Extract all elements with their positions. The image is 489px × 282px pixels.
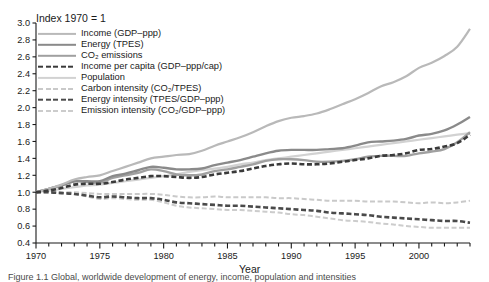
svg-text:1.0: 1.0: [17, 188, 30, 198]
svg-text:1.8: 1.8: [17, 120, 30, 130]
legend-line-swatch: [38, 28, 76, 39]
legend-line-swatch: [38, 72, 76, 83]
svg-text:0.8: 0.8: [17, 204, 30, 214]
legend-item[interactable]: CO₂ emissions: [38, 50, 225, 61]
svg-text:1990: 1990: [281, 251, 301, 261]
svg-text:0.4: 0.4: [17, 238, 30, 248]
svg-text:2.2: 2.2: [17, 86, 30, 96]
svg-text:3.0: 3.0: [17, 18, 30, 28]
legend-line-swatch: [38, 105, 76, 116]
legend-item-label: Energy (TPES): [81, 39, 144, 50]
legend-item-label: Population: [81, 72, 125, 83]
legend-item-label: Energy intensity (TPES/GDP–ppp): [81, 94, 224, 105]
legend-item[interactable]: Energy intensity (TPES/GDP–ppp): [38, 94, 225, 105]
legend-line-swatch: [38, 50, 76, 61]
svg-text:0.6: 0.6: [17, 221, 30, 231]
svg-text:1.2: 1.2: [17, 171, 30, 181]
svg-text:1975: 1975: [90, 251, 110, 261]
svg-text:1970: 1970: [26, 251, 46, 261]
svg-text:2.0: 2.0: [17, 103, 30, 113]
series-line: [36, 117, 470, 192]
legend-line-swatch: [38, 39, 76, 50]
legend-item-label: Carbon intensity (CO₂/TPES): [81, 83, 201, 94]
legend-line-swatch: [38, 61, 76, 72]
legend-item-label: Income per capita (GDP–ppp/cap): [81, 61, 222, 72]
chart-legend: Income (GDP–ppp)Energy (TPES)CO₂ emissio…: [38, 28, 225, 116]
legend-item[interactable]: Carbon intensity (CO₂/TPES): [38, 83, 225, 94]
svg-text:1995: 1995: [345, 251, 365, 261]
svg-text:1985: 1985: [217, 251, 237, 261]
legend-item-label: CO₂ emissions: [81, 50, 142, 61]
svg-text:1.4: 1.4: [17, 154, 30, 164]
legend-item-label: Emission intensity (CO₂/GDP–ppp): [81, 105, 225, 116]
svg-text:2.4: 2.4: [17, 69, 30, 79]
svg-text:2.6: 2.6: [17, 52, 30, 62]
legend-item[interactable]: Population: [38, 72, 225, 83]
legend-item[interactable]: Energy (TPES): [38, 39, 225, 50]
figure-caption: Figure 1.1 Global, worldwide development…: [8, 272, 486, 282]
svg-text:2.8: 2.8: [17, 35, 30, 45]
legend-item[interactable]: Income (GDP–ppp): [38, 28, 225, 39]
legend-line-swatch: [38, 83, 76, 94]
svg-text:1980: 1980: [153, 251, 173, 261]
svg-text:2000: 2000: [409, 251, 429, 261]
legend-item[interactable]: Emission intensity (CO₂/GDP–ppp): [38, 105, 225, 116]
svg-text:1.6: 1.6: [17, 137, 30, 147]
legend-item[interactable]: Income per capita (GDP–ppp/cap): [38, 61, 225, 72]
legend-item-label: Income (GDP–ppp): [81, 28, 161, 39]
legend-line-swatch: [38, 94, 76, 105]
